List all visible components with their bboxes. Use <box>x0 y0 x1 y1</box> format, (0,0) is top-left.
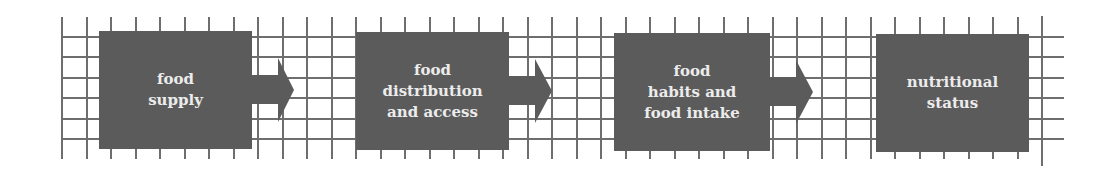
step-food-distribution: food distribution and access <box>356 32 509 150</box>
step-label: food distribution and access <box>382 60 482 123</box>
step-food-supply: food supply <box>99 31 252 149</box>
step-food-habits: food habits and food intake <box>614 33 770 151</box>
step-label: food supply <box>148 69 203 111</box>
grid-line <box>1041 16 1043 166</box>
right-arrow-icon <box>508 57 554 125</box>
step-label: nutritional status <box>907 72 998 114</box>
right-arrow-icon <box>251 56 296 124</box>
right-arrow-icon <box>769 58 815 126</box>
step-nutritional-status: nutritional status <box>876 34 1029 152</box>
step-label: food habits and food intake <box>644 61 739 124</box>
flow-diagram: food supply food distribution and access… <box>0 0 1119 178</box>
